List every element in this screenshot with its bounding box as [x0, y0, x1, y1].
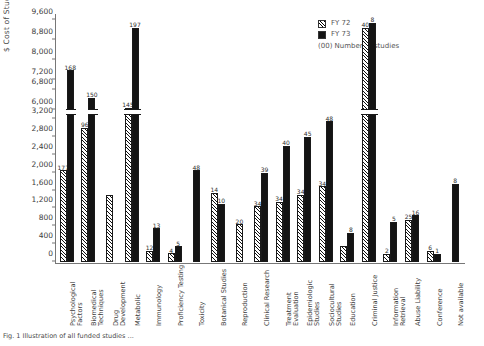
bar-fy73: 13 — [153, 228, 160, 262]
bar-fy73: 197 — [132, 28, 139, 263]
y-axis-tick: 8,800 — [32, 27, 56, 36]
bar-value-label: 4 — [169, 247, 173, 254]
bar-group: 3448 — [315, 121, 337, 262]
y-axis-tick: 6,000 — [32, 97, 56, 106]
bar-group: 20 — [229, 224, 251, 262]
bar-value-label: 5 — [392, 215, 396, 222]
bar-group: 48 — [185, 170, 207, 262]
y-axis-tick: 1,600 — [32, 177, 56, 186]
bar-group: 3439 — [250, 173, 272, 262]
bar-value-label: 45 — [304, 130, 312, 137]
x-axis-label: Criminal Justice — [372, 264, 379, 326]
y-axis-tick: 0 — [48, 249, 56, 258]
y-axis-tick: 3,200 — [32, 106, 56, 115]
bar-group: 8 — [337, 233, 359, 262]
x-axis-label: Botanical Studies — [221, 264, 228, 326]
bar-group: 45 — [164, 246, 186, 262]
x-axis-label: Reproduction — [242, 264, 249, 326]
x-axis-label: Not available — [458, 264, 465, 326]
bar-value-label: 8 — [453, 177, 457, 184]
bar-fy73: 5 — [390, 222, 397, 262]
bar-fy72: 2 — [383, 254, 390, 262]
bar-fy72: 40 — [362, 28, 369, 263]
bar-group: 1410 — [207, 193, 229, 262]
x-axis-label: Conference — [437, 264, 444, 326]
x-axis-label: Immunology — [156, 264, 163, 326]
x-axis-label: Education — [350, 264, 357, 326]
axis-break-marker — [66, 109, 76, 115]
bar-group: 145197 — [121, 28, 143, 263]
bar-group: 8 — [444, 184, 466, 262]
bar-fy73: 8 — [347, 233, 354, 262]
bar-value-label: 150 — [86, 91, 97, 98]
bar-value-label: 5 — [176, 240, 180, 247]
bar-value-label: 48 — [325, 115, 333, 122]
bar-group: 96150 — [78, 98, 100, 263]
x-axis-label: Metabolic — [135, 264, 142, 326]
x-axis-label: Biomedical Techniques — [91, 264, 106, 326]
bar-value-label: 8 — [370, 16, 374, 23]
bar-fy73: 1 — [434, 254, 441, 262]
bar-fy73: 10 — [218, 204, 225, 262]
bar-fy73: 8 — [452, 184, 459, 262]
bar-value-label: 13 — [153, 222, 161, 229]
y-axis-tickmark — [52, 39, 56, 40]
bar-fy73: 40 — [283, 146, 290, 262]
x-axis-label: Clinical Research — [264, 264, 271, 326]
bar-fy72: 34 — [319, 186, 326, 262]
y-axis-tickmark — [52, 59, 56, 60]
y-axis-title: $ Cost of Studies (Thousands) — [2, 0, 11, 52]
bar-value-label: 10 — [218, 197, 226, 204]
y-axis-tick: 8,000 — [32, 47, 56, 56]
bar-group: 25 — [380, 222, 402, 262]
y-axis-tickmark — [52, 19, 56, 20]
bar-fy73: 150 — [88, 98, 95, 263]
bar-fy72 — [340, 246, 347, 262]
bar-value-label: 20 — [236, 218, 244, 225]
bar-fy72: 20 — [236, 224, 243, 262]
bar-group: 3440 — [272, 146, 294, 262]
bar-value-label: 8 — [349, 226, 353, 233]
bar-value-label: 168 — [65, 64, 76, 71]
bar-group: 408 — [358, 23, 380, 263]
bar-value-label: 2 — [385, 247, 389, 254]
plot-area: 04008001,2001,6002,0002,4002,8003,2006,0… — [56, 14, 466, 262]
bar-fy72: 34 — [297, 195, 304, 262]
bar-fy73: 48 — [193, 170, 200, 262]
bar-value-label: 16 — [412, 209, 420, 216]
chart-figure: FY 72 FY 73 (00) Number of studies $ Cos… — [0, 0, 484, 346]
bar-group: 177168 — [56, 70, 78, 262]
y-axis-tick: 9,600 — [32, 7, 56, 16]
axis-break-marker — [131, 109, 141, 115]
bar-fy72: 6 — [427, 251, 434, 262]
y-axis-tick: 1,200 — [32, 195, 56, 204]
y-axis-tick: 800 — [39, 213, 56, 222]
y-axis-tick: 2,400 — [32, 141, 56, 150]
x-axis-label: Treatment Evaluation — [286, 264, 301, 326]
bar-group — [99, 195, 121, 262]
axis-break-marker — [88, 109, 98, 115]
figure-caption: Fig. 1 Illustration of all funded studie… — [3, 332, 134, 340]
y-axis-tick: 2,800 — [32, 123, 56, 132]
bar-value-label: 39 — [261, 166, 269, 173]
x-axis-label: Abuse Liability — [415, 264, 422, 326]
bar-fy73: 39 — [261, 173, 268, 262]
bar-fy72: 96 — [81, 128, 88, 262]
x-axis-label: Epidemiologic Studies — [307, 264, 322, 326]
y-axis-tick: 2,000 — [32, 159, 56, 168]
bar-fy72: 145 — [125, 108, 132, 263]
bar-value-label: 40 — [282, 139, 290, 146]
x-axis-label: Psychological Factors — [70, 264, 85, 326]
bar-fy72: 34 — [254, 206, 261, 262]
bar-value-label: 197 — [129, 21, 140, 28]
x-axis-label: Information Retrieval — [393, 264, 408, 326]
bar-fy72: 12 — [146, 251, 153, 262]
bar-value-label: 14 — [211, 186, 219, 193]
bar-fy72 — [106, 195, 113, 262]
caption-clip — [0, 341, 484, 346]
bar-fy73: 8 — [369, 23, 376, 263]
x-axis-label: Proficiency Testing — [178, 264, 185, 326]
bar-value-label: 48 — [192, 164, 200, 171]
bar-fy73: 48 — [326, 121, 333, 262]
x-axis-labels: Psychological FactorsBiomedical Techniqu… — [56, 266, 466, 328]
